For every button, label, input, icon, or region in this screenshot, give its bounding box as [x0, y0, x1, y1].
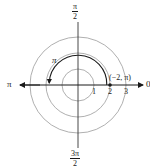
radial-tick-1: 1 — [92, 88, 96, 96]
point-label: (−2, π) — [109, 74, 131, 82]
radial-tick-2: 2 — [108, 88, 112, 96]
angle-label-top: π 2 — [72, 3, 78, 21]
polar-grid — [0, 0, 150, 168]
radial-tick-3: 3 — [124, 88, 128, 96]
angle-label-right: 0 — [146, 80, 150, 89]
polar-diagram: π 2 3π 2 π 0 1 2 3 π (−2, π) — [0, 0, 150, 168]
angle-label-bottom: 3π 2 — [70, 150, 80, 168]
arc-label: π — [52, 56, 57, 65]
angle-label-left: π — [7, 80, 12, 89]
